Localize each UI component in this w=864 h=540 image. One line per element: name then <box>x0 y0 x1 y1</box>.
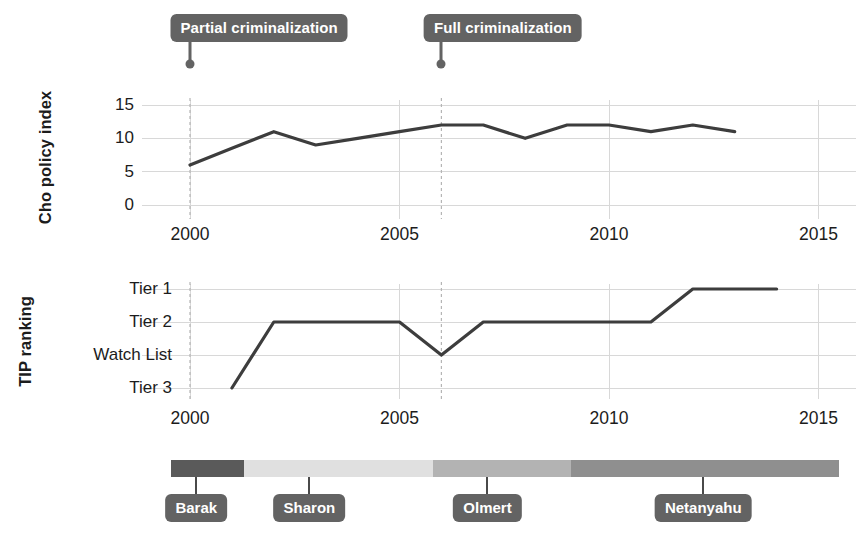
event-annotation-stem <box>189 42 192 60</box>
y-axis-title-cho-policy-index: Cho policy index <box>36 73 55 243</box>
event-annotation-dot <box>437 60 446 69</box>
event-annotation-stem <box>440 42 443 60</box>
chart-figure: Partial criminalizationFull criminalizat… <box>0 0 864 540</box>
x-tick-label: 2005 <box>360 410 440 428</box>
y-axis-title-tip-ranking: TIP ranking <box>16 282 35 402</box>
prime-minister-timeline-bar <box>171 460 839 477</box>
x-tick-label: 2010 <box>569 410 649 428</box>
pm-timeline-segment <box>571 460 839 477</box>
event-annotation-dot <box>186 60 195 69</box>
y-tick-label: 15 <box>115 96 134 113</box>
x-tick-label: 2015 <box>779 226 859 244</box>
plot-panel-cho-policy-index <box>140 98 840 220</box>
x-tick-label: 2000 <box>150 226 230 244</box>
tip-ranking-line-chart <box>140 282 840 400</box>
pm-label-olmert: Olmert <box>453 494 521 522</box>
y-tick-label: 10 <box>115 129 134 146</box>
y-tick-label: Tier 2 <box>129 313 172 330</box>
data-series-line <box>232 289 777 388</box>
pm-label-stem <box>486 477 488 494</box>
pm-label-stem <box>195 477 197 494</box>
pm-label-barak: Barak <box>165 494 227 522</box>
x-tick-label: 2000 <box>150 410 230 428</box>
pm-label-stem <box>702 477 704 494</box>
pm-timeline-segment <box>171 460 244 477</box>
pm-timeline-segment <box>433 460 571 477</box>
event-annotation-label: Full criminalization <box>424 14 582 42</box>
pm-label-sharon: Sharon <box>274 494 346 522</box>
y-tick-label: Tier 3 <box>129 379 172 396</box>
cho-policy-index-line-chart <box>140 98 840 220</box>
pm-timeline-segment <box>244 460 433 477</box>
x-tick-label: 2005 <box>360 226 440 244</box>
y-tick-label: 5 <box>125 163 134 180</box>
y-tick-label: Watch List <box>93 346 172 363</box>
event-annotation-label: Partial criminalization <box>170 14 347 42</box>
y-tick-label: Tier 1 <box>129 280 172 297</box>
pm-label-stem <box>308 477 310 494</box>
x-tick-label: 2010 <box>569 226 649 244</box>
y-tick-label: 0 <box>125 196 134 213</box>
x-tick-label: 2015 <box>779 410 859 428</box>
pm-label-netanyahu: Netanyahu <box>655 494 752 522</box>
plot-panel-tip-ranking <box>140 282 840 400</box>
data-series-line <box>190 125 735 165</box>
